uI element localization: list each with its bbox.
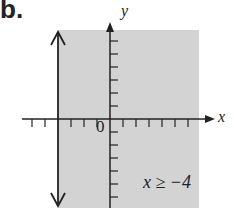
origin-label: 0 — [96, 117, 105, 137]
y-axis-label: y — [121, 2, 128, 20]
x-axis-arrow-icon — [205, 115, 215, 123]
y-axis-arrow-icon — [106, 22, 114, 32]
inequality-graph — [0, 0, 234, 219]
inequality-label: x ≥ −4 — [143, 172, 191, 193]
x-axis-label: x — [218, 108, 225, 126]
